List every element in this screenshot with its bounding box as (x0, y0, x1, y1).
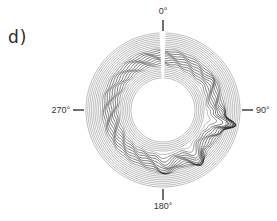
trace-line (131, 78, 195, 142)
trace-line (95, 42, 231, 178)
tick-label-270: 270° (51, 105, 70, 115)
trace-line (126, 73, 201, 148)
trace-line (129, 76, 197, 144)
trace-line (124, 71, 202, 149)
trace-line (90, 37, 237, 184)
trace-line (93, 40, 233, 180)
trace-line (122, 69, 204, 151)
angular-ticks: 0°90°180°270° (51, 6, 270, 211)
trace-line (127, 74, 198, 145)
tick-label-0: 0° (159, 6, 168, 16)
trace-line (97, 44, 229, 176)
tick-label-90: 90° (256, 105, 270, 115)
concentric-traces (86, 33, 240, 187)
polar-waterfall-plot: 0°90°180°270° (0, 0, 277, 221)
tick-label-180: 180° (154, 201, 173, 211)
